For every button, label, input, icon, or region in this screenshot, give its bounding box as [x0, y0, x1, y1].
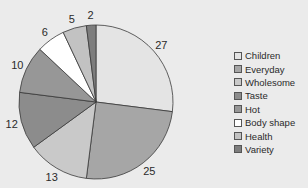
legend-item-hot: Hot — [234, 103, 295, 116]
pie-slices — [19, 25, 173, 179]
slice-value-label: 12 — [6, 118, 18, 130]
legend-item-everyday: Everyday — [234, 62, 295, 75]
legend-swatch — [234, 105, 242, 113]
slice-value-label: 5 — [69, 13, 75, 25]
slice-value-label: 6 — [42, 26, 48, 38]
legend-label: Variety — [245, 144, 274, 155]
slice-value-label: 27 — [155, 39, 167, 51]
slice-value-label: 2 — [87, 9, 93, 21]
pie-slice-everyday — [86, 102, 172, 179]
legend-swatch — [234, 92, 242, 100]
legend-item-taste: Taste — [234, 89, 295, 102]
legend-label: Taste — [245, 90, 268, 101]
legend-item-wholesome: Wholesome — [234, 76, 295, 89]
legend-item-variety: Variety — [234, 143, 295, 156]
legend-label: Everyday — [245, 64, 285, 75]
legend-swatch — [234, 145, 242, 153]
slice-value-label: 25 — [143, 165, 155, 177]
legend-label: Hot — [245, 104, 260, 115]
slice-value-label: 10 — [11, 59, 23, 71]
legend-item-children: Children — [234, 49, 295, 62]
legend: Children Everyday Wholesome Taste Hot Bo… — [234, 49, 295, 156]
legend-label: Wholesome — [245, 77, 295, 88]
legend-item-body-shape: Body shape — [234, 116, 295, 129]
legend-swatch — [234, 119, 242, 127]
legend-swatch — [234, 132, 242, 140]
legend-swatch — [234, 78, 242, 86]
legend-label: Body shape — [245, 117, 295, 128]
legend-swatch — [234, 52, 242, 60]
legend-item-health: Health — [234, 129, 295, 142]
legend-swatch — [234, 65, 242, 73]
slice-value-label: 13 — [46, 171, 58, 183]
pie-chart: 2725131210652 — [0, 0, 230, 188]
legend-label: Health — [245, 131, 272, 142]
legend-label: Children — [245, 50, 280, 61]
